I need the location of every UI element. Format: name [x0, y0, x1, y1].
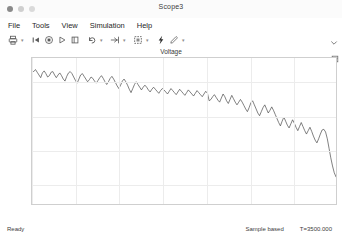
status-mode-label: Sample based: [245, 226, 283, 232]
x-axis-tick-mark: [207, 204, 208, 205]
toolbar: ▾: [0, 32, 342, 48]
status-ready-label: Ready: [0, 226, 24, 232]
x-axis-tick-mark: [76, 204, 77, 205]
gridline-horizontal: [32, 185, 336, 186]
chart-axes[interactable]: 2752802852900500100015002000250030003500: [31, 57, 337, 205]
menu-item-simulation[interactable]: Simulation: [90, 21, 125, 30]
step-forward-icon[interactable]: [68, 34, 81, 47]
layout-grid-icon[interactable]: [131, 34, 144, 47]
status-time-label: T=3500.000: [300, 226, 332, 232]
menu-item-help[interactable]: Help: [137, 21, 152, 30]
window-title: Scope3: [0, 3, 342, 10]
status-right-group: Sample based T=3500.000: [245, 226, 342, 232]
menu-item-file[interactable]: File: [8, 21, 20, 30]
gridline-vertical: [251, 58, 252, 204]
step-back-icon[interactable]: [29, 34, 42, 47]
title-bar: Scope3: [0, 0, 342, 18]
gridline-vertical: [32, 58, 33, 204]
menu-item-tools[interactable]: Tools: [32, 21, 50, 30]
x-axis-tick-mark: [294, 204, 295, 205]
print-icon[interactable]: [6, 34, 19, 47]
undo-arrow-icon[interactable]: [85, 34, 98, 47]
status-bar: Ready Sample based T=3500.000: [0, 220, 342, 238]
pencil-chevron-down-icon[interactable]: ▾: [180, 34, 186, 47]
y-axis-tick-mark: [31, 82, 32, 83]
gridline-horizontal: [32, 117, 336, 118]
menu-bar: File Tools View Simulation Help: [0, 18, 342, 32]
y-axis-tick-mark: [31, 185, 32, 186]
voltage-trace: [32, 58, 336, 204]
gridline-horizontal: [32, 151, 336, 152]
cursor-icon[interactable]: [108, 34, 121, 47]
x-axis-tick-mark: [251, 204, 252, 205]
pencil-icon[interactable]: [167, 34, 180, 47]
maximize-axes-icon[interactable]: [331, 49, 339, 57]
gridline-vertical: [207, 58, 208, 204]
gridline-vertical: [294, 58, 295, 204]
gridline-vertical: [163, 58, 164, 204]
lightning-icon[interactable]: [154, 34, 167, 47]
gridline-horizontal: [32, 82, 336, 83]
x-axis-tick-mark: [32, 204, 33, 205]
plot-area: Voltage 27528028529005001000150020002500…: [0, 48, 342, 218]
y-axis-tick-mark: [31, 151, 32, 152]
scope-window: Scope3 File Tools View Simulation Help ▾: [0, 0, 342, 238]
x-axis-tick-mark: [163, 204, 164, 205]
play-icon[interactable]: [55, 34, 68, 47]
gridline-vertical: [76, 58, 77, 204]
menu-item-view[interactable]: View: [62, 21, 78, 30]
plot-title: Voltage: [0, 48, 342, 55]
toolbar-overflow-chevron-down-icon[interactable]: [330, 33, 338, 41]
x-axis-tick-mark: [119, 204, 120, 205]
gridline-vertical: [119, 58, 120, 204]
stop-icon[interactable]: [42, 34, 55, 47]
y-axis-tick-mark: [31, 117, 32, 118]
